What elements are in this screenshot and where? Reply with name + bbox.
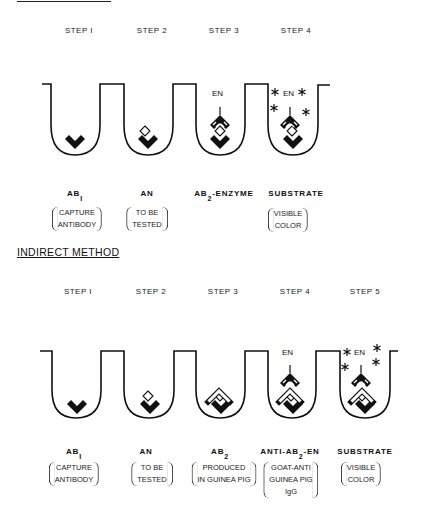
capture-antibody-icon: [67, 400, 87, 414]
desc-line: IgG: [269, 486, 312, 498]
antigen-icon: [215, 126, 225, 136]
desc-line: GOAT-ANTI: [269, 462, 312, 474]
desc-line: CAPTURE: [58, 207, 96, 219]
enzyme-antibody-icon: [280, 365, 300, 387]
indirect-desc-2: TO BETESTED: [131, 462, 173, 486]
desc-line: CAPTURE: [55, 462, 93, 474]
capture-antibody-icon: [140, 400, 160, 414]
indirect-step-3: STEP 3: [208, 287, 238, 296]
indirect-method-title: INDIRECT METHOD: [17, 246, 119, 258]
reagent-main: SUBSTRATE: [337, 447, 393, 456]
reagent-sub: I: [79, 453, 82, 460]
color-star-icon: [271, 104, 278, 112]
enzyme-antibody-icon: [351, 365, 371, 387]
indirect-desc-5: VISIBLECOLOR: [341, 462, 381, 486]
indirect-desc-4: GOAT-ANTIGUINEA PIGIgG: [263, 462, 318, 498]
direct-desc-2: TO BETESTED: [126, 207, 168, 231]
capture-antibody-icon: [283, 135, 303, 149]
color-star-icon: [374, 344, 381, 352]
reagent-sub: I: [80, 195, 83, 202]
desc-line: VISIBLE: [347, 462, 375, 474]
desc-line: COLOR: [274, 220, 302, 232]
direct-reagent-2: AN: [140, 189, 153, 198]
indirect-desc-1: CAPTUREANTIBODY: [49, 462, 99, 486]
wells-diagram: [0, 0, 426, 520]
desc-line: TESTED: [137, 474, 167, 486]
direct-desc-4: VISIBLECOLOR: [268, 208, 308, 232]
enzyme-label: EN: [283, 89, 294, 98]
reagent-suffix: -ENZYME: [212, 189, 254, 198]
antigen-icon: [140, 126, 150, 136]
desc-line: VISIBLE: [274, 208, 302, 220]
desc-line: TESTED: [132, 219, 162, 231]
capture-antibody-icon: [210, 135, 230, 149]
indirect-step-2: STEP 2: [136, 287, 166, 296]
capture-antibody-icon: [138, 135, 158, 149]
reagent-sub: 2: [224, 453, 229, 460]
desc-line: GUINEA PIG: [269, 474, 312, 486]
indirect-desc-3: PRODUCEDIN GUINEA PIG: [192, 462, 257, 486]
desc-line: COLOR: [347, 474, 375, 486]
indirect-reagent-5: SUBSTRATE: [337, 447, 393, 456]
indirect-reagent-4: ANTI-AB2-EN: [260, 447, 319, 460]
indirect-reagent-3: AB2: [211, 447, 229, 460]
direct-reagent-4: SUBSTRATE: [268, 189, 324, 198]
indirect-step-5: STEP 5: [350, 287, 380, 296]
desc-line: ANTIBODY: [58, 219, 96, 231]
enzyme-label: EN: [354, 348, 365, 357]
reagent-main: ANTI-AB: [260, 447, 298, 456]
enzyme-antibody-icon: [280, 107, 300, 129]
enzyme-label: EN: [282, 348, 293, 357]
capture-antibody-icon: [65, 135, 85, 149]
reagent-main: AB: [66, 447, 79, 456]
desc-line: TO BE: [137, 462, 167, 474]
direct-reagent-3: AB2-ENZYME: [194, 189, 253, 202]
reagent-main: AN: [139, 447, 152, 456]
color-star-icon: [344, 348, 351, 356]
indirect-reagent-2: AN: [139, 447, 152, 456]
desc-line: PRODUCED: [198, 462, 251, 474]
indirect-reagent-1: ABI: [66, 447, 82, 460]
desc-line: ANTIBODY: [55, 474, 93, 486]
color-star-icon: [373, 358, 380, 366]
enzyme-label: EN: [212, 89, 223, 98]
color-star-icon: [272, 88, 279, 96]
antigen-icon: [143, 391, 153, 401]
reagent-main: AB: [194, 189, 207, 198]
color-star-icon: [342, 363, 349, 371]
desc-line: IN GUINEA PIG: [198, 474, 251, 486]
indirect-step-1: STEP I: [64, 287, 92, 296]
color-star-icon: [303, 108, 310, 116]
reagent-main: AN: [140, 189, 153, 198]
direct-reagent-1: ABI: [67, 189, 83, 202]
color-star-icon: [299, 88, 306, 96]
direct-desc-1: CAPTUREANTIBODY: [52, 207, 102, 231]
indirect-step-4: STEP 4: [280, 287, 310, 296]
reagent-main: SUBSTRATE: [268, 189, 324, 198]
reagent-main: AB: [211, 447, 224, 456]
reagent-main: AB: [67, 189, 80, 198]
desc-line: TO BE: [132, 207, 162, 219]
reagent-suffix: -EN: [304, 447, 320, 456]
